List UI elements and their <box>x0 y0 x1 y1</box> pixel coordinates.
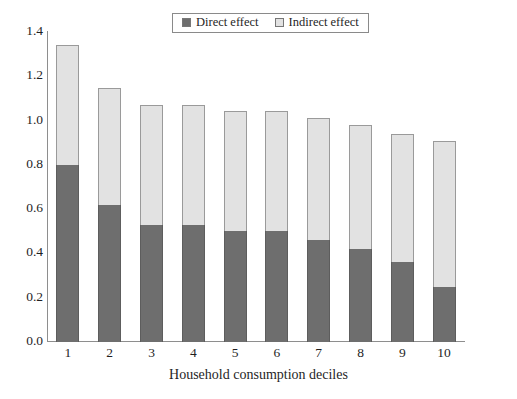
x-axis-title: Household consumption deciles <box>0 367 517 383</box>
legend-item-indirect-effect: Indirect effect <box>275 16 359 29</box>
y-axis-tick-label: 1.4 <box>1 23 43 39</box>
bar-group <box>224 111 247 342</box>
x-axis-tick-label: 9 <box>382 345 422 361</box>
legend-label-indirect-effect: Indirect effect <box>289 16 359 29</box>
bar-group <box>307 118 330 342</box>
x-axis-tick-label: 6 <box>257 345 297 361</box>
x-axis-tick-label: 10 <box>424 345 464 361</box>
plot-area <box>47 31 465 343</box>
legend-swatch-indirect-effect-icon <box>275 18 284 27</box>
bar-group <box>98 88 121 342</box>
bar-segment-indirect-effect <box>56 45 79 165</box>
bar-group <box>349 125 372 342</box>
bar-segment-indirect-effect <box>265 111 288 231</box>
x-axis-tick-label: 3 <box>132 345 172 361</box>
bar-segment-direct-effect <box>140 225 163 342</box>
x-axis-tick-label: 5 <box>215 345 255 361</box>
bar-segment-direct-effect <box>391 262 414 342</box>
y-axis-tick-label: 1.2 <box>1 67 43 83</box>
bar-segment-direct-effect <box>265 231 288 342</box>
x-axis-tick-label: 2 <box>90 345 130 361</box>
legend-swatch-direct-effect-icon <box>182 18 191 27</box>
bar-segment-direct-effect <box>182 225 205 342</box>
bar-segment-indirect-effect <box>391 134 414 262</box>
bar-segment-indirect-effect <box>433 141 456 287</box>
x-axis-tick-label: 8 <box>341 345 381 361</box>
x-axis-tick-label: 1 <box>48 345 88 361</box>
bar-segment-indirect-effect <box>98 88 121 205</box>
bar-group <box>182 105 205 342</box>
stacked-bar-chart: Direct effect Indirect effect 0.00.20.40… <box>0 0 517 399</box>
bar-group <box>265 111 288 342</box>
y-axis-tick-label: 0.6 <box>1 200 43 216</box>
bar-group <box>56 45 79 342</box>
bar-segment-direct-effect <box>349 249 372 342</box>
legend-label-direct-effect: Direct effect <box>196 16 259 29</box>
bar-segment-indirect-effect <box>224 111 247 231</box>
y-axis-tick-label: 0.0 <box>1 333 43 349</box>
x-axis-tick-labels: 12345678910 <box>47 345 465 365</box>
legend-item-direct-effect: Direct effect <box>182 16 259 29</box>
bar-segment-indirect-effect <box>349 125 372 249</box>
bar-segment-direct-effect <box>56 165 79 342</box>
bar-segment-indirect-effect <box>140 105 163 225</box>
y-axis-tick-label: 0.4 <box>1 244 43 260</box>
bar-group <box>433 141 456 342</box>
bar-segment-indirect-effect <box>182 105 205 225</box>
x-axis-tick-label: 4 <box>173 345 213 361</box>
bar-segment-direct-effect <box>307 240 330 342</box>
y-axis-tick-label: 1.0 <box>1 112 43 128</box>
bar-segment-direct-effect <box>433 287 456 342</box>
x-axis-tick-label: 7 <box>299 345 339 361</box>
bar-group <box>391 134 414 342</box>
y-axis-tick-label: 0.8 <box>1 156 43 172</box>
bar-group <box>140 105 163 342</box>
y-axis-line <box>47 31 48 342</box>
chart-legend: Direct effect Indirect effect <box>172 13 369 33</box>
bar-segment-direct-effect <box>98 205 121 342</box>
bar-segment-indirect-effect <box>307 118 330 240</box>
y-axis-tick-label: 0.2 <box>1 289 43 305</box>
y-axis-tick-labels: 0.00.20.40.60.81.01.21.4 <box>0 31 43 343</box>
bar-segment-direct-effect <box>224 231 247 342</box>
